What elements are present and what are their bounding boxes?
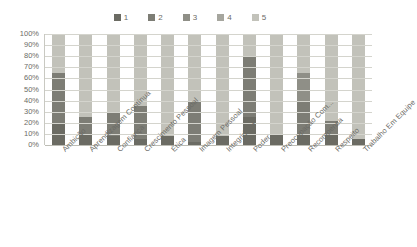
legend-item-3[interactable]: 3 [183, 14, 197, 22]
legend-label: 2 [158, 14, 162, 22]
legend-label: 5 [262, 14, 266, 22]
gridline [45, 34, 372, 35]
gridline [45, 123, 372, 124]
bar-segment-series-5[interactable] [79, 34, 92, 117]
legend-swatch-icon [114, 14, 121, 21]
legend-item-2[interactable]: 2 [148, 14, 162, 22]
y-axis-tick-label: 10% [24, 130, 39, 138]
legend-swatch-icon [148, 14, 155, 21]
y-axis-tick-label: 40% [24, 97, 39, 105]
legend-swatch-icon [217, 14, 224, 21]
y-axis-tick-label: 0% [28, 141, 39, 149]
gridline [45, 45, 372, 46]
legend-label: 4 [227, 14, 231, 22]
y-axis-tick-label: 30% [24, 108, 39, 116]
gridline [45, 67, 372, 68]
bar-segment-series-2[interactable] [52, 73, 65, 123]
y-axis-tick-label: 80% [24, 52, 39, 60]
y-axis-tick-label: 90% [24, 41, 39, 49]
legend-label: 1 [124, 14, 128, 22]
bar-segment-series-1[interactable] [270, 134, 283, 145]
y-axis-tick-label: 20% [24, 119, 39, 127]
legend-label: 3 [193, 14, 197, 22]
y-axis: 100%90%80%70%60%50%40%30%20%10%0% [0, 28, 41, 148]
y-axis-tick-label: 70% [24, 64, 39, 72]
legend-item-4[interactable]: 4 [217, 14, 231, 22]
gridline [45, 90, 372, 91]
bar-segment-series-3[interactable] [297, 73, 310, 101]
legend-swatch-icon [252, 14, 259, 21]
y-axis-tick-label: 50% [24, 86, 39, 94]
legend-item-5[interactable]: 5 [252, 14, 266, 22]
gridline [45, 78, 372, 79]
bar-segment-series-2[interactable] [243, 56, 256, 117]
x-axis-labels: AmbiçãoAprendizagem ContínuaConfiançaCre… [44, 148, 372, 247]
chart-title-clipped [0, 0, 380, 8]
y-axis-tick-label: 60% [24, 75, 39, 83]
legend-swatch-icon [183, 14, 190, 21]
chart-legend: 12345 [0, 11, 380, 24]
gridline [45, 101, 372, 102]
plot-area [44, 34, 372, 145]
y-axis-tick-label: 100% [20, 30, 39, 38]
bar-segment-series-5[interactable] [270, 34, 283, 134]
legend-item-1[interactable]: 1 [114, 14, 128, 22]
gridline [45, 56, 372, 57]
